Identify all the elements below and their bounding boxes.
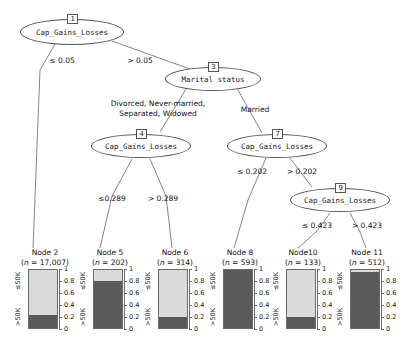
class-label-high-node11: >50K (336, 304, 344, 330)
y-tick-node10-4 (317, 317, 320, 318)
y-tick-label-node11-1: 0.8 (386, 277, 396, 285)
leaf-name-node10: Node10 (272, 248, 334, 258)
stacked-bar-node5[interactable] (93, 269, 123, 329)
y-tick-node11-1 (381, 281, 384, 282)
edge-label-3-left-line2: Separated, Widowed (98, 109, 218, 119)
tree-node-4-id-text: 4 (139, 130, 143, 138)
y-tick-label-node8-1: 0.8 (259, 277, 269, 285)
leaf-node-node11[interactable]: Node 11(n = 512)≤50K>50K10.80.60.40.20 (336, 248, 398, 331)
bar-segment-low-node2 (29, 270, 57, 317)
stacked-bar-node11[interactable] (350, 269, 380, 329)
y-tick-node6-1 (189, 281, 192, 282)
leaf-node-node8[interactable]: Node 8(n = 593)≤50K>50K10.80.60.40.20 (209, 248, 271, 331)
class-label-low-node11: ≤50K (336, 268, 344, 294)
edge-label-4-left: ≤0.289 (88, 194, 136, 203)
class-label-high-node6: >50K (144, 304, 152, 330)
tree-node-3-label: Marital status (181, 75, 244, 84)
y-tick-node6-3 (189, 305, 192, 306)
bar-segment-high-node5 (94, 281, 122, 328)
y-tick-node5-3 (124, 305, 127, 306)
y-tick-node10-3 (317, 305, 320, 306)
y-tick-label-node2-2: 0.6 (64, 289, 74, 297)
y-tick-node10-2 (317, 293, 320, 294)
class-label-high-node5: >50K (79, 304, 87, 330)
y-tick-node2-5 (59, 329, 62, 330)
leaf-name-node5: Node 5 (79, 248, 141, 258)
y-tick-label-node10-0: 1 (322, 265, 326, 273)
y-tick-node5-1 (124, 281, 127, 282)
y-tick-label-node6-2: 0.6 (194, 289, 204, 297)
y-tick-node11-3 (381, 305, 384, 306)
class-label-low-node8: ≤50K (209, 268, 217, 294)
class-label-low-node2: ≤50K (14, 268, 22, 294)
y-tick-label-node11-5: 0 (386, 325, 390, 333)
tree-node-4-label: Cap_Gains_Losses (105, 142, 177, 151)
stacked-bar-node6[interactable] (158, 269, 188, 329)
leaf-node-node2[interactable]: Node 2(n = 17,007)≤50K>50K10.80.60.40.20 (14, 248, 76, 331)
leaf-node-node5[interactable]: Node 5(n = 202)≤50K>50K10.80.60.40.20 (79, 248, 141, 331)
y-tick-label-node5-2: 0.6 (129, 289, 139, 297)
y-tick-label-node5-5: 0 (129, 325, 133, 333)
y-tick-node11-4 (381, 317, 384, 318)
leaf-plot-node5: ≤50K>50K10.80.60.40.20 (79, 269, 141, 331)
class-label-low-node6: ≤50K (144, 268, 152, 294)
class-label-high-node8: >50K (209, 304, 217, 330)
stacked-bar-node2[interactable] (28, 269, 58, 329)
edge-label-4-right-text: > 0.289 (148, 194, 178, 203)
leaf-node-node10[interactable]: Node10(n = 133)≤50K>50K10.80.60.40.20 (272, 248, 334, 331)
y-tick-node8-0 (254, 269, 257, 270)
y-tick-label-node6-3: 0.4 (194, 301, 204, 309)
decision-tree-figure: Cap_Gains_Losses 1 Marital status 3 Cap_… (0, 0, 412, 353)
y-tick-node8-3 (254, 305, 257, 306)
tree-node-9-id: 9 (335, 183, 346, 193)
y-tick-node8-2 (254, 293, 257, 294)
y-tick-node5-5 (124, 329, 127, 330)
y-tick-label-node11-3: 0.4 (386, 301, 396, 309)
tree-node-7-id: 7 (272, 129, 283, 139)
bar-segment-high-node2 (29, 315, 57, 328)
tree-node-7-label: Cap_Gains_Losses (241, 142, 313, 151)
y-tick-label-node5-4: 0.2 (129, 313, 139, 321)
y-tick-node11-2 (381, 293, 384, 294)
y-tick-label-node2-5: 0 (64, 325, 68, 333)
y-tick-node2-2 (59, 293, 62, 294)
y-tick-node6-2 (189, 293, 192, 294)
y-tick-label-node10-2: 0.6 (322, 289, 332, 297)
tree-node-1-label: Cap_Gains_Losses (36, 28, 108, 37)
y-axis-node8 (254, 269, 255, 329)
edge-label-3-left: Divorced, Never-married, Separated, Wido… (98, 99, 218, 119)
y-axis-node10 (317, 269, 318, 329)
y-tick-label-node11-4: 0.2 (386, 313, 396, 321)
bar-segment-high-node8 (224, 269, 252, 328)
y-tick-node2-0 (59, 269, 62, 270)
class-label-high-node2: >50K (14, 304, 22, 330)
y-tick-label-node11-0: 1 (386, 265, 390, 273)
edge-label-3-right-text: Married (241, 105, 270, 114)
class-label-low-node5: ≤50K (79, 268, 87, 294)
bar-segment-high-node11 (351, 272, 379, 328)
edge-label-3-left-line1: Divorced, Never-married, (98, 99, 218, 109)
bar-segment-high-node6 (159, 317, 187, 328)
edge-label-1-right: > 0.05 (110, 56, 170, 65)
y-tick-label-node5-1: 0.8 (129, 277, 139, 285)
y-tick-node8-1 (254, 281, 257, 282)
stacked-bar-node10[interactable] (286, 269, 316, 329)
edge-label-7-right: > 0.202 (277, 167, 327, 176)
edge-label-3-right: Married (228, 105, 282, 114)
edge-label-9-right-text: > 0.423 (352, 221, 382, 230)
edge-label-1-left: ≤ 0.05 (32, 56, 92, 65)
edge-label-7-right-text: > 0.202 (287, 167, 317, 176)
y-tick-label-node8-0: 1 (259, 265, 263, 273)
y-tick-node11-0 (381, 269, 384, 270)
stacked-bar-node8[interactable] (223, 269, 253, 329)
edge-label-9-left-text: ≤ 0.423 (302, 221, 332, 230)
y-tick-node8-4 (254, 317, 257, 318)
y-axis-node5 (124, 269, 125, 329)
edge-label-1-left-text: ≤ 0.05 (49, 56, 74, 65)
y-tick-node2-3 (59, 305, 62, 306)
y-tick-label-node5-0: 1 (129, 265, 133, 273)
edge-label-1-right-text: > 0.05 (127, 56, 152, 65)
y-tick-label-node2-4: 0.2 (64, 313, 74, 321)
leaf-node-node6[interactable]: Node 6(n = 314)≤50K>50K10.80.60.40.20 (144, 248, 206, 331)
leaf-name-node6: Node 6 (144, 248, 206, 258)
